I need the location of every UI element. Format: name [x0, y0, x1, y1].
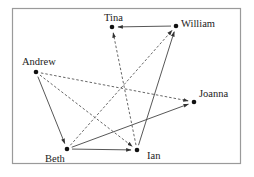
edge-ian-to-tina [113, 33, 136, 145]
edges [38, 26, 189, 150]
node-andrew: Andrew [22, 56, 56, 74]
node-dot [110, 25, 115, 30]
node-label: Tina [104, 12, 123, 23]
edge-andrew-to-ian [40, 75, 132, 146]
node-label: Beth [45, 153, 66, 164]
nodes: TinaWilliamAndrewJoannaBethIan [22, 12, 228, 164]
node-label: William [181, 18, 215, 29]
node-dot [34, 70, 39, 75]
edge-beth-to-joanna [72, 104, 189, 147]
node-william: William [174, 18, 215, 29]
graph-diagram: TinaWilliamAndrewJoannaBethIan [0, 0, 254, 177]
node-beth: Beth [45, 147, 69, 164]
edge-beth-to-ian [72, 149, 131, 150]
node-ian: Ian [135, 148, 161, 161]
node-dot [192, 100, 197, 105]
node-dot [174, 24, 179, 29]
node-label: Andrew [22, 56, 56, 67]
node-joanna: Joanna [192, 88, 229, 104]
diagram-frame [13, 9, 241, 164]
node-label: Ian [147, 150, 161, 161]
edge-andrew-to-joanna [41, 73, 188, 101]
node-dot [135, 148, 140, 153]
edge-andrew-to-beth [38, 77, 65, 144]
edge-william-to-tina [118, 26, 171, 27]
node-dot [65, 147, 70, 152]
node-label: Joanna [199, 88, 228, 99]
edge-ian-to-william [139, 32, 175, 146]
